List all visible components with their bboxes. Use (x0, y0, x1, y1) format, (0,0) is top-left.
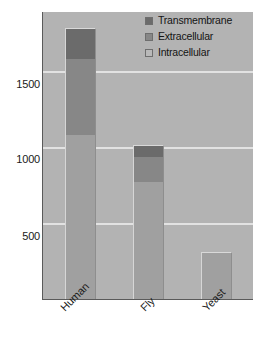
stacked-bar-chart: 1500 1000 500 Transmembrane (0, 0, 266, 343)
legend-item-transmembrane[interactable]: Transmembrane (145, 14, 232, 27)
chart-legend: Transmembrane Extracellular Intracellula… (145, 14, 232, 59)
legend-label-transmembrane: Transmembrane (158, 15, 232, 26)
plot-area: Transmembrane Extracellular Intracellula… (42, 12, 253, 300)
bar-segment-fly-intracellular[interactable] (133, 182, 164, 299)
x-axis: Human Fly Yeast (42, 301, 253, 343)
bar-human[interactable] (65, 28, 96, 299)
bar-segment-fly-extracellular[interactable] (133, 157, 164, 182)
y-tick-label-1000: 1000 (2, 153, 40, 165)
legend-swatch-intracellular-icon (145, 49, 153, 57)
legend-swatch-extracellular-icon (145, 33, 153, 41)
legend-label-intracellular: Intracellular (158, 47, 210, 58)
legend-item-extracellular[interactable]: Extracellular (145, 30, 232, 43)
legend-item-intracellular[interactable]: Intracellular (145, 46, 232, 59)
legend-label-extracellular: Extracellular (158, 31, 213, 42)
y-tick-label-1500: 1500 (2, 78, 40, 90)
legend-swatch-transmembrane-icon (145, 17, 153, 25)
bar-segment-human-transmembrane[interactable] (65, 28, 96, 59)
bar-segment-fly-transmembrane[interactable] (133, 145, 164, 157)
bar-segment-human-extracellular[interactable] (65, 59, 96, 135)
bar-fly[interactable] (133, 145, 164, 299)
bar-segment-human-intracellular[interactable] (65, 135, 96, 299)
y-tick-label-500: 500 (2, 230, 40, 242)
y-axis: 1500 1000 500 (0, 12, 40, 300)
